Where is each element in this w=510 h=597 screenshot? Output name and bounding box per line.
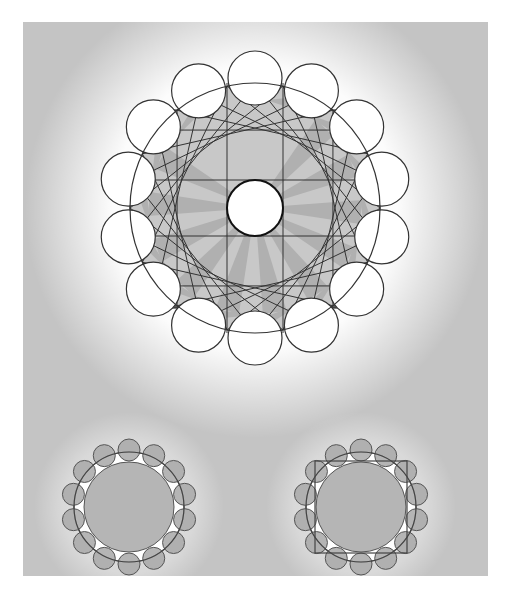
figure-panel <box>23 22 488 576</box>
main-star-diagram <box>25 22 485 438</box>
geometric-figure <box>23 22 488 576</box>
